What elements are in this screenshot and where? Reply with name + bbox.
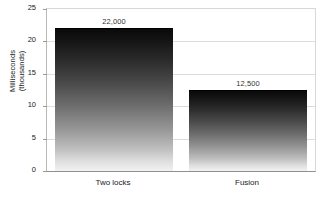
plot-area: 22,00012,500 — [46, 8, 316, 172]
y-axis-tick-label: 10 — [28, 101, 36, 109]
bar-value-label: 12,500 — [236, 79, 260, 88]
bar[interactable] — [55, 28, 173, 171]
y-axis-tick-label: 20 — [28, 36, 36, 44]
y-axis-tick-mark — [43, 139, 47, 140]
y-axis-tick-mark — [43, 41, 47, 42]
y-axis-tick-labels: 0510152025 — [0, 0, 42, 197]
y-axis-tick-label: 0 — [32, 166, 36, 174]
y-axis-tick-label: 25 — [28, 4, 36, 12]
y-axis-tick-mark — [43, 74, 47, 75]
y-axis-tick-label: 15 — [28, 69, 36, 77]
y-axis-tick-label: 5 — [32, 134, 36, 142]
x-axis-category-label: Two locks — [95, 178, 130, 187]
x-axis-category-labels: Two locksFusion — [46, 178, 316, 194]
bar-value-label: 22,000 — [102, 17, 126, 26]
y-axis-tick-mark — [43, 9, 47, 10]
x-axis-category-label: Fusion — [235, 178, 259, 187]
bar[interactable] — [189, 90, 307, 171]
y-axis-tick-mark — [43, 106, 47, 107]
y-axis-tick-mark — [43, 171, 47, 172]
bar-chart: Milliseconds (thousands) 0510152025 22,0… — [0, 0, 330, 197]
